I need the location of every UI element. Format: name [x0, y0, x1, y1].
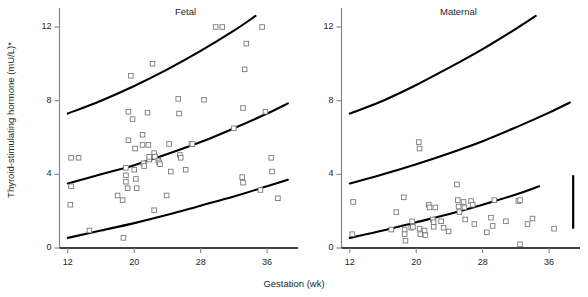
x-tick-label-maternal-12: 12	[335, 257, 365, 267]
data-point-marker	[463, 217, 468, 222]
data-point-marker	[124, 173, 129, 178]
data-point-marker	[213, 25, 218, 30]
data-point-marker	[394, 210, 399, 215]
y-tick-label-maternal-8: 8	[314, 95, 334, 105]
data-point-marker	[76, 155, 81, 160]
data-point-marker	[125, 186, 130, 191]
y-tick-label-maternal-12: 12	[314, 21, 334, 31]
data-point-marker	[241, 106, 246, 111]
data-point-marker	[270, 169, 275, 174]
data-point-marker	[241, 180, 246, 185]
data-point-marker	[167, 142, 172, 147]
y-tick-label-fetal-0: 0	[32, 242, 52, 252]
data-point-marker	[489, 215, 494, 220]
y-tick-label-fetal-12: 12	[32, 21, 52, 31]
data-point-marker	[258, 188, 263, 193]
data-point-marker	[422, 228, 427, 233]
data-point-marker	[240, 175, 245, 180]
data-point-marker	[351, 200, 356, 205]
data-point-marker	[242, 67, 247, 72]
data-point-marker	[350, 232, 355, 237]
data-point-marker	[126, 109, 131, 114]
data-point-marker	[140, 143, 145, 148]
data-point-marker	[178, 155, 183, 160]
data-point-marker	[134, 186, 139, 191]
plot-canvas	[0, 0, 588, 297]
data-point-marker	[130, 117, 135, 122]
x-tick-label-maternal-28: 28	[468, 257, 498, 267]
data-point-marker	[416, 140, 421, 145]
data-point-marker	[446, 229, 451, 234]
data-point-marker	[176, 97, 181, 102]
data-point-marker	[276, 196, 281, 201]
y-tick-label-fetal-4: 4	[32, 168, 52, 178]
data-point-marker	[492, 198, 497, 203]
data-point-marker	[164, 193, 169, 198]
data-point-marker	[124, 166, 129, 171]
x-tick-label-maternal-36: 36	[534, 257, 564, 267]
data-point-marker	[472, 222, 477, 227]
data-point-marker	[69, 155, 74, 160]
data-point-marker	[431, 220, 436, 225]
data-point-marker	[455, 198, 460, 203]
data-point-marker	[132, 167, 137, 172]
data-point-marker	[244, 41, 249, 46]
data-point-marker	[427, 205, 432, 210]
data-point-marker	[183, 167, 188, 172]
reference-curve-upper-centile	[350, 16, 536, 114]
data-point-marker	[147, 155, 152, 160]
data-point-marker	[457, 210, 462, 215]
y-tick-label-maternal-0: 0	[314, 242, 334, 252]
data-point-marker	[126, 138, 131, 143]
data-point-marker	[441, 225, 446, 230]
y-tick-label-maternal-4: 4	[314, 168, 334, 178]
data-point-marker	[158, 162, 163, 167]
panel-fetal	[55, 8, 299, 253]
data-point-marker	[490, 224, 495, 229]
data-point-marker	[150, 62, 155, 67]
data-point-marker	[146, 143, 151, 148]
data-point-marker	[220, 25, 225, 30]
data-point-marker	[439, 219, 444, 224]
data-point-marker	[410, 219, 415, 224]
data-point-marker	[145, 110, 150, 115]
data-point-marker	[389, 227, 394, 232]
data-point-marker	[417, 226, 422, 231]
data-point-marker	[190, 142, 195, 147]
data-point-marker	[456, 204, 461, 209]
data-point-marker	[504, 219, 509, 224]
data-point-marker	[87, 228, 92, 233]
data-point-marker	[263, 109, 268, 114]
data-point-marker	[417, 146, 422, 151]
data-point-marker	[133, 146, 138, 151]
data-point-marker	[462, 205, 467, 210]
data-point-marker	[433, 205, 438, 210]
data-point-marker	[411, 225, 416, 230]
data-point-marker	[455, 182, 460, 187]
data-point-marker	[134, 177, 139, 182]
data-point-marker	[485, 230, 490, 235]
y-tick-label-fetal-8: 8	[32, 95, 52, 105]
data-point-marker	[269, 155, 274, 160]
data-point-marker	[232, 126, 237, 131]
data-point-marker	[202, 97, 207, 102]
x-tick-label-maternal-20: 20	[401, 257, 431, 267]
x-tick-label-fetal-12: 12	[53, 257, 83, 267]
x-tick-label-fetal-20: 20	[119, 257, 149, 267]
data-point-marker	[142, 164, 147, 169]
x-tick-label-fetal-28: 28	[186, 257, 216, 267]
data-point-marker	[431, 225, 436, 230]
data-point-marker	[115, 193, 120, 198]
data-point-marker	[69, 184, 74, 189]
figure-scatter-tsh-gestation: Thyroid-stimulating hormone (mU/L)* Gest…	[0, 0, 588, 297]
data-point-marker	[518, 242, 523, 247]
data-point-marker	[518, 198, 523, 203]
data-point-marker	[402, 227, 407, 232]
data-point-marker	[260, 25, 265, 30]
data-point-marker	[140, 132, 145, 137]
reference-curve-lower-centile	[68, 180, 288, 238]
data-point-marker	[552, 226, 557, 231]
data-point-marker	[120, 198, 125, 203]
data-point-marker	[401, 195, 406, 200]
data-point-marker	[152, 208, 157, 213]
